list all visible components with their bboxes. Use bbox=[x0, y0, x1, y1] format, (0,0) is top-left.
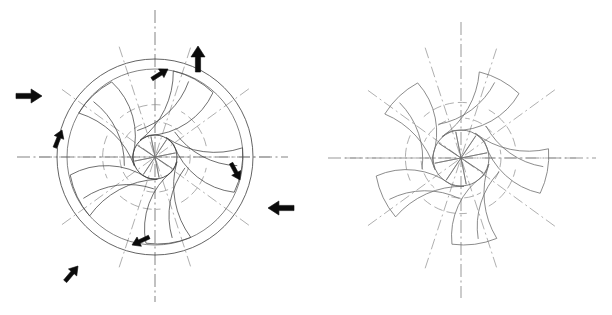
impeller-drawing-canvas bbox=[0, 0, 612, 315]
sheet-background bbox=[0, 0, 612, 315]
figure-sheet bbox=[0, 0, 612, 315]
